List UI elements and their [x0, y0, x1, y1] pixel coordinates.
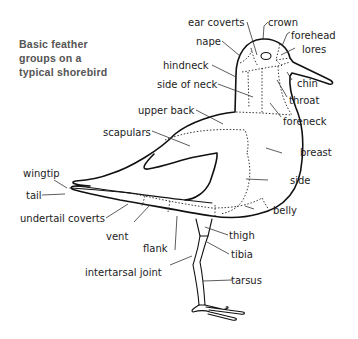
label-tarsus: tarsus [231, 275, 262, 286]
feather-group-boundaries [130, 44, 292, 216]
shorebird-diagram: ear coverts crown forehead lores nape hi… [0, 0, 358, 339]
label-thigh: thigh [229, 230, 255, 241]
label-tail: tail [26, 190, 42, 201]
label-nape: nape [196, 36, 221, 47]
label-breast: breast [300, 147, 332, 158]
label-side-of-neck: side of neck [157, 79, 217, 90]
wing-outline [144, 153, 217, 200]
label-lores: lores [302, 44, 326, 55]
label-flank: flank [143, 243, 168, 254]
label-wingtip: wingtip [23, 168, 60, 179]
eye [261, 53, 271, 60]
label-belly: belly [273, 205, 297, 216]
label-hindneck: hindneck [163, 60, 209, 71]
thigh-outline [196, 219, 212, 236]
label-upper-back: upper back [138, 105, 194, 116]
label-foreneck: foreneck [283, 116, 327, 127]
label-crown: crown [268, 17, 298, 28]
label-intertarsal-joint: intertarsal joint [85, 267, 162, 278]
label-ear-coverts: ear coverts [188, 17, 245, 28]
leg-outline [193, 236, 208, 305]
feather-labels: ear coverts crown forehead lores nape hi… [20, 17, 336, 286]
label-vent: vent [106, 231, 128, 242]
label-undertail-coverts: undertail coverts [20, 213, 105, 224]
label-forehead: forehead [291, 30, 336, 41]
label-tibia: tibia [231, 249, 253, 260]
label-chin: chin [297, 78, 318, 89]
label-side: side [290, 175, 311, 186]
label-scapulars: scapulars [103, 127, 151, 138]
foot-outline [192, 305, 244, 320]
label-throat: throat [289, 95, 319, 106]
